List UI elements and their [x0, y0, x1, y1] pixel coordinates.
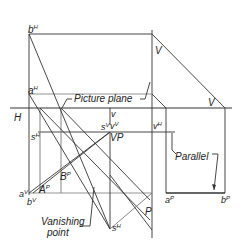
label-p: P: [145, 207, 152, 217]
label-b-v: bV: [27, 198, 36, 207]
label-a-h: aH: [28, 86, 38, 96]
label-b-h: bH: [28, 25, 38, 35]
label-s-v: sV: [101, 123, 110, 132]
label-vp: VP: [110, 133, 123, 143]
label-b-p: BP: [60, 172, 71, 182]
perspective-diagram: bH aH Picture plane H v V V sH sV vV VP …: [0, 0, 247, 245]
label-v-h: vH: [153, 122, 162, 131]
label-b-p-lower: bP: [221, 196, 230, 205]
label-v-v: vV: [110, 122, 119, 131]
label-h: H: [14, 113, 21, 123]
label-s-h-left: sH: [31, 133, 40, 142]
label-v-top: v: [111, 110, 116, 119]
label-v-right: V: [208, 98, 215, 108]
label-picture-plane: Picture plane: [74, 94, 132, 104]
label-a-p: aP: [165, 196, 174, 205]
label-point: point: [47, 228, 69, 238]
label-v-upper: V: [155, 46, 162, 56]
label-vanishing: Vanishing: [41, 217, 85, 227]
label-s-h-bottom: sH: [112, 224, 121, 233]
label-parallel: Parallel: [175, 152, 208, 162]
label-a-p-upper: AP: [39, 185, 50, 195]
diagram-lines: [0, 0, 247, 245]
